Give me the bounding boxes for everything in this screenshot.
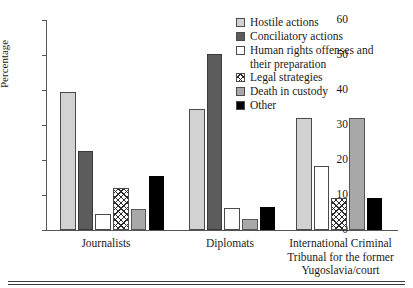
bar-chart-figure: Percentage 0102030405060 JournalistsDipl… <box>0 0 413 288</box>
y-tick <box>42 125 46 126</box>
bar <box>331 198 347 230</box>
bar <box>113 188 129 230</box>
legend-swatch-icon <box>236 18 245 27</box>
chart-legend: Hostile actionsConciliatory actionsHuman… <box>236 16 411 113</box>
y-axis-line <box>46 20 47 230</box>
legend-item: Death in custody <box>236 85 411 98</box>
legend-item: Hostile actions <box>236 16 411 29</box>
legend-item: Other <box>236 99 411 112</box>
footer-rule-top <box>8 281 405 282</box>
y-tick <box>42 55 46 56</box>
legend-swatch-icon <box>236 32 245 41</box>
y-tick <box>42 90 46 91</box>
group-label-line: International Criminal <box>268 237 413 251</box>
legend-item: Legal strategies <box>236 71 411 84</box>
y-tick <box>42 20 46 21</box>
group-label: Journalists <box>36 237 176 251</box>
legend-swatch-icon <box>236 101 245 110</box>
legend-item: Conciliatory actions <box>236 30 411 43</box>
bar <box>349 118 365 230</box>
legend-label: Hostile actions <box>250 16 319 29</box>
legend-swatch-icon <box>236 87 245 96</box>
bar <box>296 118 312 230</box>
footer-rule-bottom <box>8 284 405 285</box>
y-axis-title: Percentage <box>0 40 10 88</box>
y-tick <box>42 160 46 161</box>
legend-label: Conciliatory actions <box>250 30 343 43</box>
legend-swatch-icon <box>236 73 245 82</box>
legend-label: Human rights offenses and <box>250 44 373 57</box>
y-tick <box>42 195 46 196</box>
y-tick <box>42 230 46 231</box>
legend-label: Legal strategies <box>250 71 322 84</box>
bar-group <box>60 20 172 230</box>
bar <box>131 209 147 230</box>
bar <box>95 214 111 230</box>
bar <box>367 198 383 230</box>
bar <box>260 207 276 230</box>
legend-label: Death in custody <box>250 85 328 98</box>
bar <box>149 176 165 230</box>
legend-label: Other <box>250 99 276 112</box>
legend-swatch-icon <box>236 46 245 55</box>
group-label-line: Tribunal for the former <box>268 251 413 265</box>
bar <box>189 109 205 230</box>
group-label: International CriminalTribunal for the f… <box>268 237 413 278</box>
group-label-line: Yugoslavia/court <box>268 264 413 278</box>
bar <box>314 166 330 230</box>
bar <box>207 54 223 230</box>
bar <box>242 219 258 230</box>
bar <box>78 151 94 230</box>
bar <box>224 208 240 230</box>
legend-item: Human rights offenses and <box>236 44 411 57</box>
group-label-line: Journalists <box>36 237 176 251</box>
bar <box>60 92 76 230</box>
legend-label-continuation: their preparation <box>236 58 411 71</box>
